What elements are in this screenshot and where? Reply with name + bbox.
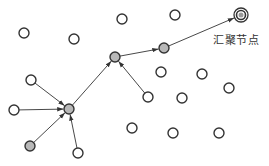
network-diagram [0,0,269,166]
edge-arrow [70,114,77,148]
sensor-node-icon [168,128,178,138]
relay-node-icon [159,43,169,53]
sensor-node-icon [156,67,166,77]
sink-node-icon [239,13,244,18]
sensor-node-icon [143,92,153,102]
sensor-node-icon [224,83,234,93]
edge-arrow [19,109,64,110]
sensor-node-icon [9,105,19,115]
sensor-node-icon [127,123,137,133]
sensor-node-icon [19,28,29,38]
relay-node-icon [64,104,74,114]
edge-arrow [119,61,145,93]
relay-node-icon [25,141,35,151]
sensor-node-icon [117,14,127,24]
edge-arrow [120,49,159,56]
edge-arrow [72,61,111,105]
sensor-node-icon [197,69,207,79]
sensor-node-icon [170,10,180,20]
sensor-node-icon [177,93,187,103]
sink-node-label: 汇聚节点 [213,31,259,47]
edge-arrow [35,83,65,106]
sensor-node-icon [73,148,83,158]
sensor-node-icon [214,128,224,138]
sensor-node-icon [69,34,79,44]
relay-node-icon [110,52,120,62]
sensor-node-icon [26,75,36,85]
edge-arrow [34,113,65,143]
